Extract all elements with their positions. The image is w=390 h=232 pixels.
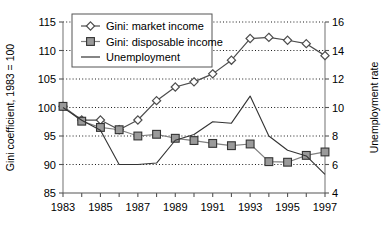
marker-square (134, 132, 142, 140)
x-tick-label: 1983 (51, 201, 75, 213)
marker-square (115, 126, 123, 134)
y-tick-label-left: 100 (38, 102, 56, 114)
marker-square (284, 158, 292, 166)
marker-square (246, 140, 254, 148)
chart-figure: 8590951001051101154681012141619831985198… (0, 0, 390, 232)
line-chart: 8590951001051101154681012141619831985198… (0, 0, 390, 232)
marker-diamond (265, 33, 273, 41)
y-tick-label-left: 85 (44, 187, 56, 199)
marker-diamond (321, 52, 329, 60)
marker-diamond (171, 83, 179, 91)
y-tick-label-right: 8 (332, 130, 338, 142)
x-tick-label: 1987 (126, 201, 150, 213)
legend-label-2: Unemployment (106, 51, 180, 63)
x-tick-label: 1991 (200, 201, 224, 213)
x-tick-label: 1993 (238, 201, 262, 213)
marker-square (321, 148, 329, 156)
x-tick-label: 1997 (313, 201, 337, 213)
x-tick-label: 1989 (163, 201, 187, 213)
y-tick-label-right: 14 (332, 45, 344, 57)
marker-square (265, 158, 273, 166)
y-tick-label-right: 16 (332, 16, 344, 28)
x-tick-label: 1985 (88, 201, 112, 213)
y-tick-label-left: 90 (44, 159, 56, 171)
marker-diamond (302, 40, 310, 48)
legend-marker-square (87, 38, 95, 46)
y-axis-title-right: Unemployment rate (368, 62, 380, 154)
marker-square (190, 137, 198, 145)
x-tick-label: 1995 (275, 201, 299, 213)
y-tick-label-right: 4 (332, 187, 338, 199)
marker-square (228, 142, 236, 150)
y-tick-label-left: 110 (38, 45, 56, 57)
legend-label-1: Gini: disposable income (106, 36, 223, 48)
y-tick-label-right: 6 (332, 159, 338, 171)
y-tick-label-left: 115 (38, 16, 56, 28)
y-tick-label-right: 10 (332, 102, 344, 114)
marker-diamond (283, 36, 291, 44)
marker-square (153, 130, 161, 138)
y-tick-label-left: 95 (44, 130, 56, 142)
y-tick-label-right: 12 (332, 73, 344, 85)
y-axis-title-left: Gini coefficient, 1983 = 100 (4, 44, 16, 172)
marker-diamond (96, 116, 104, 124)
legend-label-0: Gini: market income (106, 20, 204, 32)
y-tick-label-left: 105 (38, 73, 56, 85)
marker-square (209, 140, 217, 148)
marker-diamond (209, 70, 217, 78)
